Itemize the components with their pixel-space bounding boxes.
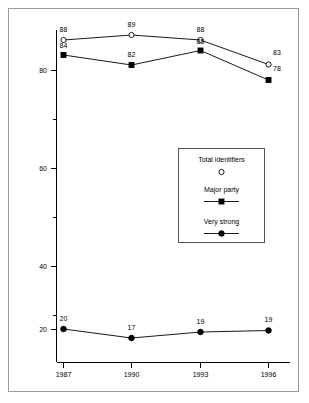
series-very-strong: 20 17 19 19: [60, 315, 273, 341]
legend-marker-open-circle-icon: [219, 169, 224, 174]
legend-label-total-identifiers: Total identifiers: [198, 156, 245, 163]
datapoint-major-party-1987: [61, 53, 66, 58]
datapoint-major-party-1993: [198, 48, 203, 53]
datalabel-total-identifiers-1993: 88: [197, 26, 205, 33]
legend-marker-filled-circle-icon: [219, 231, 225, 237]
datapoint-very-strong-1993: [198, 329, 204, 335]
datapoint-very-strong-1990: [129, 335, 135, 341]
x-tick-label-1987: 1987: [56, 371, 72, 378]
datalabel-major-party-1993: 85: [197, 38, 205, 45]
legend-label-major-party: Major party: [204, 186, 240, 194]
datapoint-major-party-1996: [266, 78, 271, 83]
y-tick-label-60: 60: [39, 165, 47, 172]
x-tick-label-1990: 1990: [124, 371, 140, 378]
series-major-party: 84 82 85 78: [60, 38, 281, 83]
datalabel-total-identifiers-1987: 88: [60, 26, 68, 33]
series-total-identifiers: 88 89 88 83: [60, 21, 281, 67]
datalabel-very-strong-1996: 19: [265, 316, 273, 323]
datapoint-major-party-1990: [129, 63, 134, 68]
datapoint-total-identifiers-1990: [129, 32, 134, 37]
y-tick-label-20: 20: [39, 326, 47, 333]
y-tick-label-40: 40: [39, 263, 47, 270]
y-tick-label-80: 80: [39, 67, 47, 74]
x-axis-ticks: [64, 363, 269, 369]
series-major-party-line: [64, 51, 269, 81]
datalabel-total-identifiers-1996: 83: [273, 49, 281, 56]
datalabel-very-strong-1993: 19: [197, 318, 205, 325]
legend-label-very-strong: Very strong: [204, 218, 240, 226]
x-tick-label-1993: 1993: [193, 371, 209, 378]
datapoint-very-strong-1996: [266, 328, 272, 334]
y-axis-tick-labels: 80 60 40 20: [39, 67, 47, 333]
y-axis-major-ticks: [51, 71, 57, 330]
x-axis-tick-labels: 1987 1990 1993 1996: [56, 371, 277, 378]
datalabel-very-strong-1987: 20: [60, 315, 68, 322]
series-very-strong-line: [64, 329, 269, 338]
datalabel-major-party-1987: 84: [60, 42, 68, 49]
x-tick-label-1996: 1996: [261, 371, 277, 378]
datapoint-total-identifiers-1996: [266, 62, 271, 67]
line-chart-canvas: 80 60 40 20 1987 1990 1993 1996 88: [0, 0, 309, 403]
datalabel-major-party-1996: 78: [273, 65, 281, 72]
datapoint-very-strong-1987: [61, 326, 67, 332]
datalabel-very-strong-1990: 17: [128, 324, 136, 331]
datalabel-total-identifiers-1990: 89: [128, 21, 136, 28]
chart-figure: 80 60 40 20 1987 1990 1993 1996 88: [0, 0, 309, 403]
datalabel-major-party-1990: 82: [128, 51, 136, 58]
series-total-identifiers-line: [64, 35, 269, 65]
chart-legend: Total identifiers Major party Very stron…: [179, 149, 265, 243]
legend-marker-filled-square-icon: [219, 199, 224, 204]
y-axis-minor-ticks: [53, 120, 57, 316]
